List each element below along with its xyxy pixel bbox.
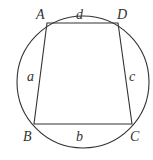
vertex-label-c: C <box>130 129 140 144</box>
vertex-label-a: A <box>35 7 45 22</box>
vertex-label-d: D <box>116 7 127 22</box>
cyclic-quadrilateral-diagram: A B C D a b c d <box>0 0 153 160</box>
side-label-d: d <box>76 7 84 22</box>
side-label-b: b <box>76 129 83 144</box>
side-label-a: a <box>27 69 34 84</box>
side-label-c: c <box>129 69 136 84</box>
quadrilateral-abcd <box>34 23 132 124</box>
vertex-label-b: B <box>23 129 32 144</box>
